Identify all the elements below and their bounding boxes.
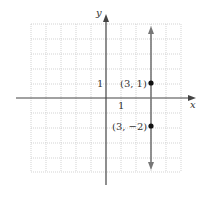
y-axis-label: y xyxy=(95,7,102,18)
point-3-neg2 xyxy=(148,123,153,128)
y-axis xyxy=(103,14,109,185)
point-label-3-neg2: (3, −2) xyxy=(112,121,147,132)
line-down-arrow-icon xyxy=(148,162,154,170)
point-3-1 xyxy=(148,80,153,85)
coordinate-plane: x y 1 1 (3, 1) (3, −2) xyxy=(0,0,211,197)
y-tick-label: 1 xyxy=(97,78,103,89)
x-axis-label: x xyxy=(190,99,196,110)
y-axis-arrow-icon xyxy=(103,14,109,22)
line-up-arrow-icon xyxy=(148,26,154,34)
point-label-3-1: (3, 1) xyxy=(120,78,147,89)
x-tick-label: 1 xyxy=(118,100,124,111)
